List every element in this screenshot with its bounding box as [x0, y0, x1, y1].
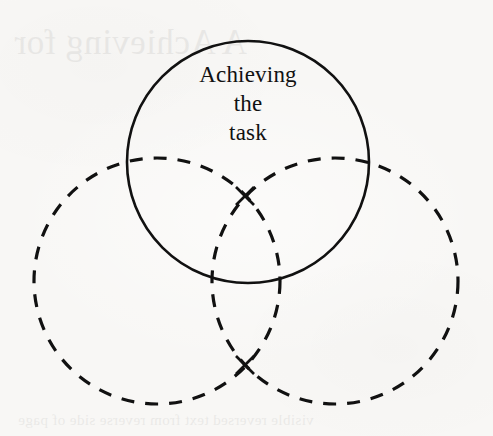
upper-intersection-cross	[236, 187, 254, 205]
figure-page: A Achieving for visible reversed text fr…	[0, 0, 493, 436]
label-line-1: Achieving	[160, 60, 336, 89]
label-line-3: task	[160, 118, 336, 147]
lower-intersection-cross	[236, 356, 254, 374]
achieving-the-task-label: Achieving the task	[160, 60, 336, 147]
label-line-2: the	[160, 89, 336, 118]
